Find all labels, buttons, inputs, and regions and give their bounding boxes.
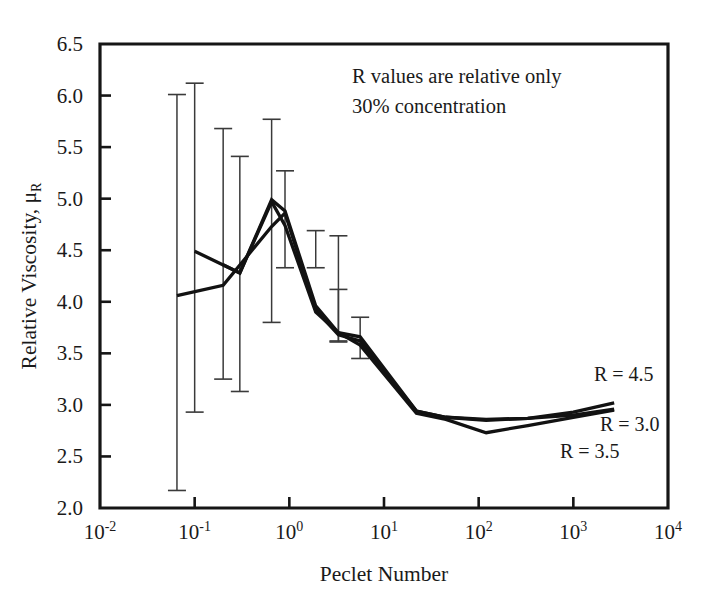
y-tick-label: 4.0 bbox=[57, 290, 83, 314]
error-bar bbox=[186, 83, 204, 412]
y-tick-label: 2.0 bbox=[57, 496, 83, 520]
annotation-line-2: 30% concentration bbox=[352, 95, 506, 117]
x-axis-ticks bbox=[195, 497, 574, 508]
x-tick-label: 104 bbox=[654, 519, 682, 544]
annotation-line-1: R values are relative only bbox=[352, 65, 562, 88]
y-tick-label: 5.5 bbox=[57, 135, 83, 159]
figure-canvas: 2.02.53.03.54.04.55.05.56.06.5 10-210-11… bbox=[0, 0, 701, 605]
x-tick-label: 100 bbox=[275, 519, 303, 544]
x-tick-label: 103 bbox=[559, 519, 587, 544]
svg-text:Relative Viscosity, μR: Relative Viscosity, μR bbox=[17, 182, 44, 369]
y-tick-label: 6.0 bbox=[57, 84, 83, 108]
y-tick-label: 5.0 bbox=[57, 187, 83, 211]
x-axis-title: Peclet Number bbox=[320, 562, 448, 586]
error-bars-group bbox=[168, 83, 369, 490]
series-label-r30: R = 3.0 bbox=[600, 413, 660, 435]
error-bar bbox=[307, 231, 325, 268]
x-tick-label: 102 bbox=[465, 519, 493, 544]
x-axis-tick-labels: 10-210-1100101102103104 bbox=[84, 519, 682, 544]
y-axis-title: Relative Viscosity, μR bbox=[17, 182, 44, 369]
series-label-r45: R = 4.5 bbox=[594, 363, 654, 385]
y-axis-title-main: Relative Viscosity, bbox=[17, 203, 41, 369]
viscosity-peclet-chart: 2.02.53.03.54.04.55.05.56.06.5 10-210-11… bbox=[0, 0, 701, 605]
y-tick-label: 3.5 bbox=[57, 341, 83, 365]
y-tick-label: 3.0 bbox=[57, 393, 83, 417]
series-line-r-3-0 bbox=[223, 200, 614, 420]
y-axis-title-subscript: R bbox=[29, 182, 44, 192]
x-tick-label: 10-1 bbox=[178, 519, 211, 544]
error-bar bbox=[214, 129, 232, 380]
x-tick-label: 10-2 bbox=[84, 519, 117, 544]
y-axis-title-mu: μ bbox=[17, 192, 41, 204]
series-label-r35: R = 3.5 bbox=[560, 440, 620, 462]
x-tick-label: 101 bbox=[370, 519, 398, 544]
y-tick-label: 4.5 bbox=[57, 238, 83, 262]
series-line-r-3-5 bbox=[195, 202, 615, 433]
y-axis-ticks bbox=[100, 96, 111, 457]
data-series-group bbox=[177, 200, 614, 433]
y-axis-tick-labels: 2.02.53.03.54.04.55.05.56.06.5 bbox=[57, 32, 83, 520]
y-tick-label: 2.5 bbox=[57, 444, 83, 468]
y-tick-label: 6.5 bbox=[57, 32, 83, 56]
